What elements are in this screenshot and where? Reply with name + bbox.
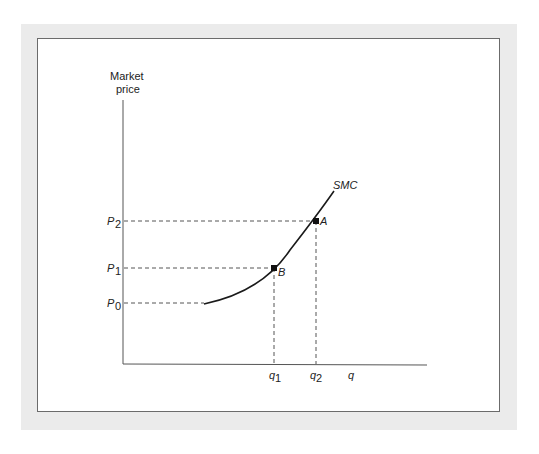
- y-tick-p2: P 2: [107, 215, 121, 230]
- point-a-label: A: [319, 215, 327, 227]
- svg-text:2: 2: [316, 372, 322, 384]
- smc-label: SMC: [333, 179, 358, 191]
- y-tick-p1: P 1: [107, 262, 121, 277]
- chart-svg: Market price SMC A B P 2 P 1 P 0 q 1 q 2…: [0, 0, 539, 454]
- smc-curve: [204, 191, 334, 304]
- x-axis: [123, 364, 427, 365]
- svg-text:1: 1: [275, 372, 281, 384]
- xlabel: q: [348, 369, 355, 381]
- x-tick-q2: q 2: [310, 369, 322, 384]
- svg-text:P: P: [107, 215, 115, 227]
- ylabel-line2: price: [116, 83, 140, 95]
- svg-text:2: 2: [115, 218, 121, 230]
- ylabel-line1: Market: [110, 70, 144, 82]
- svg-text:P: P: [107, 262, 115, 274]
- x-tick-q1: q 1: [269, 369, 281, 384]
- point-a-marker: [313, 218, 319, 224]
- point-b-marker: [271, 265, 277, 271]
- guide-lines: [124, 221, 316, 364]
- y-tick-p0: P 0: [107, 297, 121, 312]
- svg-text:1: 1: [115, 265, 121, 277]
- svg-text:0: 0: [115, 300, 121, 312]
- point-b-label: B: [278, 266, 285, 278]
- svg-text:P: P: [107, 297, 115, 309]
